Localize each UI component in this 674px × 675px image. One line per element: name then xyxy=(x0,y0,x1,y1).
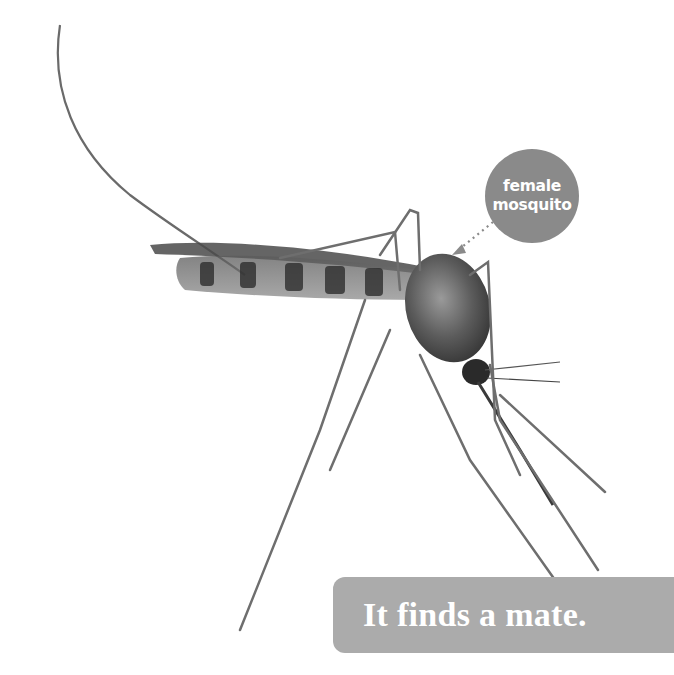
head xyxy=(462,359,490,385)
female-mosquito-label: female mosquito xyxy=(485,149,579,243)
leg-upper-curve xyxy=(58,25,245,275)
pointer-line xyxy=(462,222,493,247)
mosquito-photo xyxy=(0,0,674,675)
label-line-1: female xyxy=(503,177,561,196)
antenna-1 xyxy=(485,362,560,370)
caption-box: It finds a mate. xyxy=(333,577,674,653)
label-line-2: mosquito xyxy=(492,196,571,215)
caption-text: It finds a mate. xyxy=(363,596,587,634)
antenna-2 xyxy=(487,378,560,382)
